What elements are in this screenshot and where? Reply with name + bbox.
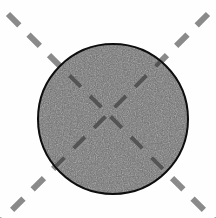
figure-canvas: Circular specimen with dashed cross-hair…	[0, 0, 216, 218]
figure-svg	[0, 0, 216, 218]
